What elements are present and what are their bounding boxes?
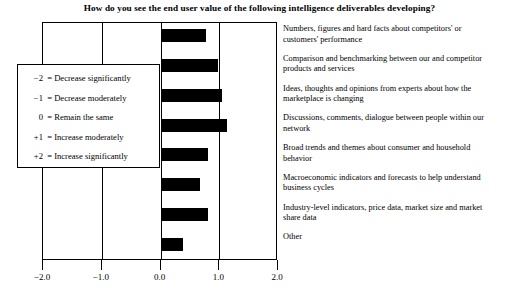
bar	[161, 29, 207, 42]
legend-item-label: = Remain the same	[45, 112, 113, 122]
bar	[161, 119, 227, 132]
category-label: Ideas, thoughts and opinions from expert…	[283, 84, 515, 105]
category-label-line: Industry-level indicators, price data, m…	[283, 203, 515, 214]
category-label-line: Comparison and benchmarking between our …	[283, 54, 515, 65]
legend-item-label: = Decrease moderately	[45, 93, 126, 103]
x-tick-mark	[101, 260, 102, 270]
category-label: Comparison and benchmarking between our …	[283, 54, 515, 75]
x-tick-label: −1.0	[81, 272, 121, 282]
category-label: Numbers, figures and hard facts about co…	[283, 24, 515, 45]
x-tick-mark	[218, 260, 219, 270]
category-label-line: Numbers, figures and hard facts about co…	[283, 24, 515, 35]
bar	[161, 238, 184, 251]
category-label: Other	[283, 232, 515, 243]
bar-chart-figure: How do you see the end user value of the…	[0, 0, 519, 292]
category-label-line: products and services	[283, 64, 515, 75]
x-tick-label: 2.0	[257, 272, 297, 282]
category-label: Discussions, comments, dialogue between …	[283, 113, 515, 134]
legend-item-key: −1	[27, 89, 43, 109]
category-label-line: customers' performance	[283, 35, 515, 46]
legend-item-label: = Decrease significantly	[45, 73, 131, 83]
legend-item: −2 = Decrease significantly	[18, 69, 159, 89]
category-label: Macroeconomic indicators and forecasts t…	[283, 173, 515, 194]
category-label-line: business cycles	[283, 183, 515, 194]
category-labels-panel: Numbers, figures and hard facts about co…	[283, 22, 519, 260]
legend-item: −1 = Decrease moderately	[18, 89, 159, 109]
category-label: Broad trends and themes about consumer a…	[283, 143, 515, 164]
legend-item: 0 = Remain the same	[18, 108, 159, 128]
category-label-line: behavior	[283, 154, 515, 165]
category-label-line: Other	[283, 232, 515, 243]
x-tick-label: 0.0	[140, 272, 180, 282]
x-tick-mark	[277, 260, 278, 270]
legend-item-key: +1	[27, 128, 43, 148]
legend-item-label: = Increase significantly	[45, 151, 128, 161]
chart-title: How do you see the end user value of the…	[0, 3, 519, 14]
legend-item: +2 = Increase significantly	[18, 147, 159, 167]
bar	[161, 208, 209, 221]
category-label-line: Discussions, comments, dialogue between …	[283, 113, 515, 124]
legend-item-label: = Increase moderately	[45, 132, 124, 142]
category-label-line: Ideas, thoughts and opinions from expert…	[283, 84, 515, 95]
x-tick-label: 1.0	[198, 272, 238, 282]
category-label: Industry-level indicators, price data, m…	[283, 203, 515, 224]
legend-item: +1 = Increase moderately	[18, 128, 159, 148]
category-label-line: marketplace is changing	[283, 94, 515, 105]
legend-item-key: +2	[27, 147, 43, 167]
category-label-line: share data	[283, 213, 515, 224]
x-tick-mark	[42, 260, 43, 270]
legend-item-key: −2	[27, 69, 43, 89]
bar	[161, 89, 223, 102]
legend-item-key: 0	[27, 108, 43, 128]
bar	[161, 59, 219, 72]
legend-box: −2 = Decrease significantly−1 = Decrease…	[17, 64, 160, 168]
x-tick-label: −2.0	[22, 272, 62, 282]
bar	[161, 148, 208, 161]
x-tick-mark	[160, 260, 161, 270]
category-label-line: Broad trends and themes about consumer a…	[283, 143, 515, 154]
category-label-line: Macroeconomic indicators and forecasts t…	[283, 173, 515, 184]
bar	[161, 178, 201, 191]
category-label-line: network	[283, 124, 515, 135]
